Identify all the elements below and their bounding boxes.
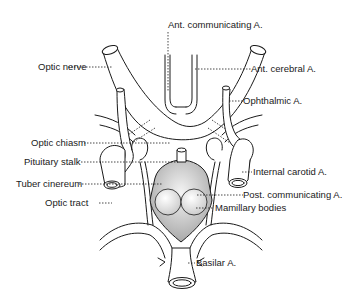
label-optic-chiasm: Optic chiasm	[31, 137, 86, 148]
leader-lines	[68, 32, 252, 263]
basilar-artery	[168, 248, 196, 289]
pituitary-stalk	[177, 148, 186, 162]
label-optic-tract: Optic tract	[45, 197, 89, 208]
label-ant-cerebral: Ant. cerebral A.	[251, 63, 316, 74]
label-basilar: Basilar A.	[196, 257, 236, 268]
circle-of-willis-diagram: Ant. communicating A. Ant. cerebral A. O…	[0, 0, 364, 297]
label-tuber-cinereum: Tuber cinereum	[16, 178, 82, 189]
label-ophthalmic: Ophthalmic A.	[243, 95, 302, 106]
label-ant-communicating: Ant. communicating A.	[168, 19, 263, 30]
label-pituitary-stalk: Pituitary stalk	[24, 156, 81, 167]
anterior-cerebral-arteries	[165, 55, 197, 114]
label-post-communicating: Post. communicating A.	[243, 189, 342, 200]
label-mamillary-bodies: Mamillary bodies	[215, 202, 287, 213]
label-optic-nerve: Optic nerve	[38, 61, 87, 72]
label-internal-carotid: Internal carotid A.	[253, 166, 327, 177]
